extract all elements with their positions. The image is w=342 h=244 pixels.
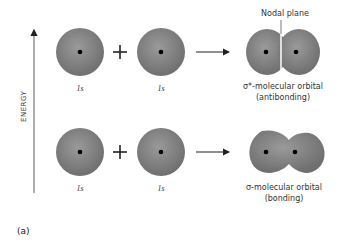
atom-orbital-1s: [137, 28, 185, 76]
part-label: (a): [17, 226, 30, 236]
caption-line: (bonding): [234, 193, 334, 204]
orbital-diagram: [0, 0, 342, 244]
nodal-plane-label: Nodal plane: [240, 8, 330, 19]
plus-sign: [113, 45, 127, 59]
atom-label: 1s: [147, 84, 175, 93]
caption-line: σ-molecular orbital: [234, 182, 334, 193]
atom-label: 1s: [147, 184, 175, 193]
atom-label: 1s: [66, 184, 94, 193]
atom-label: 1s: [66, 84, 94, 93]
caption-line: (antibonding): [230, 92, 336, 103]
caption-line: σ*-molecular orbital: [230, 81, 336, 92]
atom-orbital-1s: [56, 128, 104, 176]
atom-orbital-1s: [56, 28, 104, 76]
bonding-orbital: [249, 130, 324, 172]
orbital-caption: σ*-molecular orbital (antibonding): [230, 81, 336, 103]
antibonding-orbital: [246, 20, 320, 75]
atom-orbital-1s: [137, 128, 185, 176]
orbital-caption: σ-molecular orbital (bonding): [234, 182, 334, 204]
energy-axis-label: ENERGY: [20, 91, 28, 122]
plus-sign: [113, 145, 127, 159]
